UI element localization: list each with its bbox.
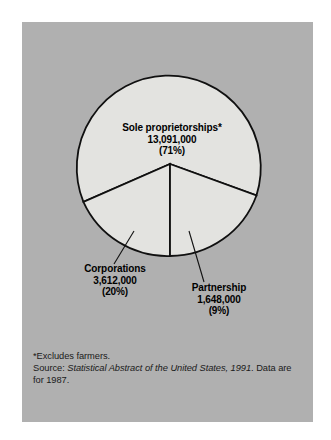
- slice-label-sole-name: Sole proprietorships*: [86, 122, 258, 134]
- footnote-block: *Excludes farmers. Source: Statistical A…: [33, 350, 301, 386]
- slice-label-partnership: Partnership 1,648,000 (9%): [155, 282, 283, 317]
- slice-label-sole-proprietorships: Sole proprietorships* 13,091,000 (71%): [86, 122, 258, 157]
- footnote-excludes: *Excludes farmers.: [33, 350, 301, 362]
- slice-label-corporations-name: Corporations: [45, 263, 185, 275]
- figure-container: Sole proprietorships* 13,091,000 (71%) C…: [0, 0, 331, 440]
- slice-label-sole-value: 13,091,000: [86, 134, 258, 146]
- footnote-source-prefix: Source:: [33, 363, 67, 373]
- slice-label-partnership-percent: (9%): [155, 305, 283, 317]
- slice-label-sole-percent: (71%): [86, 145, 258, 157]
- footnote-source: Source: Statistical Abstract of the Unit…: [33, 362, 301, 386]
- slice-label-partnership-name: Partnership: [155, 282, 283, 294]
- slice-label-partnership-value: 1,648,000: [155, 294, 283, 306]
- footnote-source-title: Statistical Abstract of the United State…: [67, 363, 251, 373]
- pie-slices: [77, 76, 261, 256]
